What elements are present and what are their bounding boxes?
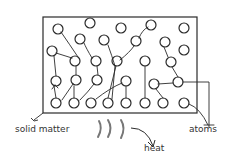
atom-circle: [121, 98, 131, 108]
atom-circle: [85, 18, 95, 28]
atom-circle: [116, 23, 126, 33]
solid-matter-pointer: [31, 113, 43, 121]
atom-circle: [179, 45, 189, 55]
atom-circle: [146, 20, 156, 30]
atom-circle: [69, 98, 79, 108]
atom-circle: [173, 77, 183, 87]
atom-circle: [121, 76, 131, 86]
atom-circle: [51, 76, 61, 86]
atom-circle: [166, 57, 176, 67]
atoms-group: [47, 18, 189, 108]
atom-circle: [179, 23, 189, 33]
atom-circle: [75, 34, 85, 44]
atom-circle: [103, 98, 113, 108]
atom-circle: [140, 98, 150, 108]
atom-circle: [179, 98, 189, 108]
atom-circle: [51, 98, 61, 108]
atom-circle: [92, 75, 102, 85]
atom-circle: [99, 35, 109, 45]
atom-circle: [86, 98, 96, 108]
solid-matter-diagram: [0, 0, 232, 165]
atom-circle: [149, 79, 159, 89]
atom-circle: [140, 56, 150, 66]
atom-circle: [160, 37, 170, 47]
atom-circle: [158, 98, 168, 108]
label-heat: heat: [144, 143, 164, 153]
atom-circle: [71, 75, 81, 85]
heat-waves-icon: [98, 120, 124, 138]
atom-circle: [47, 46, 57, 56]
atom-circle: [91, 56, 101, 66]
label-solid-matter: solid matter: [15, 124, 69, 134]
label-atoms: atoms: [189, 124, 217, 134]
